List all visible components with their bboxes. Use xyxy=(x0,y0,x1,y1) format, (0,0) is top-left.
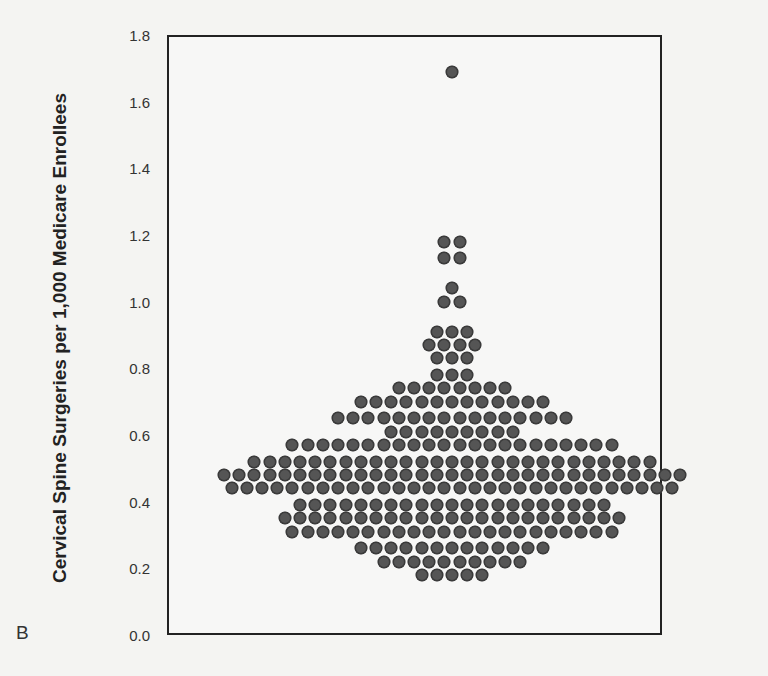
data-point xyxy=(446,352,459,365)
data-point xyxy=(423,439,436,452)
y-tick-label: 0.8 xyxy=(129,360,150,377)
data-point xyxy=(499,439,512,452)
data-point xyxy=(476,425,489,438)
data-point xyxy=(560,525,573,538)
data-point xyxy=(271,482,284,495)
data-point xyxy=(537,512,550,525)
data-point xyxy=(453,339,466,352)
data-point xyxy=(309,512,322,525)
data-point xyxy=(332,525,345,538)
y-tick-label: 1.8 xyxy=(129,27,150,44)
data-point xyxy=(446,455,459,468)
data-point xyxy=(529,525,542,538)
data-point xyxy=(415,512,428,525)
data-point xyxy=(453,252,466,265)
data-point xyxy=(484,482,497,495)
data-point xyxy=(240,482,253,495)
data-point xyxy=(446,542,459,555)
y-tick-label: 0.0 xyxy=(129,627,150,644)
data-point xyxy=(347,525,360,538)
data-point xyxy=(628,469,641,482)
data-point xyxy=(438,235,451,248)
data-point xyxy=(514,412,527,425)
data-point xyxy=(567,499,580,512)
data-point xyxy=(461,325,474,338)
y-tick-label: 1.4 xyxy=(129,160,150,177)
data-point xyxy=(499,412,512,425)
data-point xyxy=(301,482,314,495)
data-point xyxy=(461,352,474,365)
data-point xyxy=(567,455,580,468)
data-point xyxy=(453,525,466,538)
data-point xyxy=(362,525,375,538)
data-point xyxy=(385,395,398,408)
data-point xyxy=(309,469,322,482)
data-point xyxy=(332,482,345,495)
data-point xyxy=(506,512,519,525)
data-point xyxy=(248,455,261,468)
data-point xyxy=(484,525,497,538)
data-point xyxy=(430,325,443,338)
data-point xyxy=(339,499,352,512)
data-point xyxy=(499,482,512,495)
data-point xyxy=(286,525,299,538)
data-point xyxy=(620,482,633,495)
data-point xyxy=(377,555,390,568)
data-point xyxy=(446,395,459,408)
data-point xyxy=(385,512,398,525)
data-point xyxy=(339,469,352,482)
data-point xyxy=(377,439,390,452)
data-point xyxy=(400,455,413,468)
data-point xyxy=(605,525,618,538)
data-point xyxy=(453,412,466,425)
data-point xyxy=(514,482,527,495)
data-point xyxy=(590,482,603,495)
data-point xyxy=(362,439,375,452)
data-point xyxy=(560,482,573,495)
y-tick-label: 0.2 xyxy=(129,560,150,577)
data-point xyxy=(446,425,459,438)
data-point xyxy=(430,499,443,512)
data-point xyxy=(506,425,519,438)
data-point xyxy=(453,235,466,248)
data-point xyxy=(453,555,466,568)
data-point xyxy=(522,542,535,555)
data-point xyxy=(248,469,261,482)
data-point xyxy=(354,499,367,512)
data-point xyxy=(476,455,489,468)
data-point xyxy=(400,469,413,482)
data-point xyxy=(385,542,398,555)
data-point xyxy=(316,482,329,495)
data-point xyxy=(461,469,474,482)
data-point xyxy=(392,482,405,495)
data-point xyxy=(514,555,527,568)
data-point xyxy=(392,439,405,452)
data-point xyxy=(537,542,550,555)
y-tick-label: 1.0 xyxy=(129,294,150,311)
data-point xyxy=(643,469,656,482)
data-point xyxy=(347,412,360,425)
data-point xyxy=(438,412,451,425)
data-point xyxy=(438,439,451,452)
data-point xyxy=(286,482,299,495)
y-tick-label: 1.2 xyxy=(129,227,150,244)
data-point xyxy=(438,482,451,495)
data-point xyxy=(484,412,497,425)
y-tick-label: 0.4 xyxy=(129,494,150,511)
data-point xyxy=(613,512,626,525)
data-point xyxy=(354,512,367,525)
data-point xyxy=(491,512,504,525)
data-point xyxy=(430,569,443,582)
data-point xyxy=(339,512,352,525)
data-point xyxy=(438,252,451,265)
data-point xyxy=(476,569,489,582)
data-point xyxy=(468,439,481,452)
data-point xyxy=(575,525,588,538)
data-point xyxy=(605,439,618,452)
data-point xyxy=(423,482,436,495)
data-point xyxy=(278,469,291,482)
data-point xyxy=(423,555,436,568)
data-point xyxy=(544,412,557,425)
dot-plot-figure: B Cervical Spine Surgeries per 1,000 Med… xyxy=(0,0,768,676)
data-point xyxy=(430,512,443,525)
